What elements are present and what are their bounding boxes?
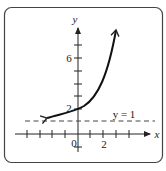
y-axis: [74, 28, 82, 152]
x-tick-2-label: 2: [101, 138, 107, 150]
y-axis-label: y: [72, 13, 78, 25]
figure-frame: [5, 8, 163, 163]
x-axis-label: x: [154, 128, 160, 140]
y-tick-2-label: 2: [66, 102, 72, 114]
y-tick-6-label: 6: [66, 52, 72, 64]
graph-figure: y x 6 2 0 2 y = 1: [0, 0, 166, 171]
asymptote-label: y = 1: [113, 108, 136, 120]
origin-label: 0: [71, 137, 77, 149]
exponential-curve: [47, 30, 116, 118]
x-axis: [15, 130, 150, 138]
